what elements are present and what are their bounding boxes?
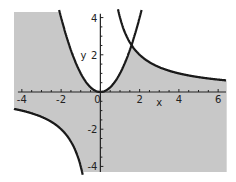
y-tick-label: 4 [91, 13, 97, 24]
x-tick-label: 4 [176, 94, 182, 105]
y-tick-label: -4 [87, 161, 97, 172]
region-plot: -4-20246-4-224xy [0, 0, 236, 182]
y-tick-label: 2 [91, 50, 97, 61]
x-axis-label: x [156, 97, 162, 108]
x-tick-label: 0 [94, 94, 100, 105]
x-tick-label: -4 [17, 94, 27, 105]
x-tick-label: -2 [56, 94, 66, 105]
y-axis-label: y [80, 50, 86, 61]
x-tick-label: 2 [136, 94, 142, 105]
x-tick-label: 6 [215, 94, 221, 105]
y-tick-label: -2 [87, 124, 97, 135]
